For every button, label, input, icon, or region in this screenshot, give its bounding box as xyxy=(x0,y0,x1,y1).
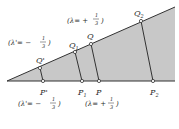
point-Pprime xyxy=(41,79,44,82)
point-P xyxy=(97,79,100,82)
label-Q2: Q2 xyxy=(134,9,144,19)
svg-text:3: 3 xyxy=(95,20,98,26)
label-Q: Q xyxy=(87,32,94,41)
label-Qprime: Q' xyxy=(36,56,45,65)
label-P1: P1 xyxy=(77,88,87,98)
svg-text:1: 1 xyxy=(95,12,98,18)
svg-text:1: 1 xyxy=(52,96,55,102)
geometry-diagram: Q' Q1 Q Q2 P' P1 P P2 (λ'= − 1 3 ) (λ= +… xyxy=(0,0,179,129)
point-P1 xyxy=(80,79,83,82)
svg-text:): ) xyxy=(115,100,119,108)
point-Qprime xyxy=(38,66,41,69)
label-Q1: Q1 xyxy=(69,41,79,51)
svg-text:(λ'= −: (λ'= − xyxy=(8,39,31,47)
svg-text:1: 1 xyxy=(42,35,45,41)
point-P2 xyxy=(151,79,154,82)
svg-text:): ) xyxy=(57,100,61,108)
point-Q2 xyxy=(139,19,142,22)
point-Q xyxy=(89,42,92,45)
svg-text:(λ= +: (λ= + xyxy=(67,17,88,25)
label-P2: P2 xyxy=(149,88,159,98)
svg-text:): ) xyxy=(47,39,51,47)
svg-text:3: 3 xyxy=(52,104,55,110)
annotation-lower-mid: (λ= + 1 3 ) xyxy=(85,96,119,110)
label-Pprime: P' xyxy=(39,88,48,97)
annotation-upper-left: (λ'= − 1 3 ) xyxy=(8,35,51,49)
annotation-lower-left: (λ'= − 1 3 ) xyxy=(18,96,61,110)
annotation-upper-mid: (λ= + 1 3 ) xyxy=(67,12,104,26)
svg-text:(λ'= −: (λ'= − xyxy=(18,100,41,108)
label-P: P xyxy=(95,88,102,97)
svg-text:): ) xyxy=(100,17,104,25)
svg-text:3: 3 xyxy=(110,104,113,110)
svg-text:1: 1 xyxy=(110,96,113,102)
svg-text:(λ= +: (λ= + xyxy=(85,100,106,108)
svg-text:3: 3 xyxy=(42,43,45,49)
